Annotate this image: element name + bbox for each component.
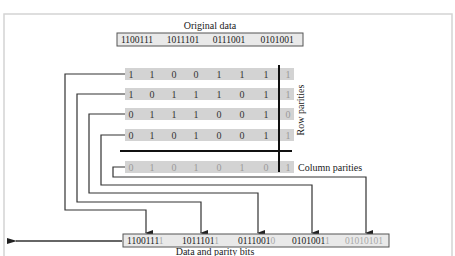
output-word: 01010101 [345, 236, 383, 246]
row-parity-bit: 1 [286, 69, 291, 80]
original-data-title: Original data [184, 20, 237, 31]
output-word: 01110010 [238, 236, 276, 246]
svg-text:0: 0 [217, 109, 222, 120]
svg-text:0: 0 [150, 89, 155, 100]
svg-text:0: 0 [129, 130, 134, 141]
svg-text:1: 1 [286, 162, 291, 173]
svg-text:0: 0 [129, 109, 134, 120]
svg-text:1: 1 [194, 89, 199, 100]
original-data-word: 1100111 [121, 35, 153, 45]
svg-text:1: 1 [150, 130, 155, 141]
row-parity-bit: 1 [286, 130, 291, 141]
svg-text:1: 1 [129, 89, 134, 100]
svg-text:1: 1 [172, 109, 177, 120]
svg-text:1: 1 [240, 69, 245, 80]
svg-text:0: 0 [264, 162, 269, 173]
svg-text:0: 0 [240, 109, 245, 120]
matrix-row: 1 0 1 1 1 0 1 1 [125, 88, 294, 100]
svg-text:1: 1 [150, 69, 155, 80]
output-word: 11001111 [127, 236, 164, 246]
svg-text:0: 0 [217, 162, 222, 173]
original-data-word: 0111001 [213, 35, 246, 45]
svg-text:0: 0 [129, 162, 134, 173]
output-word: 10111011 [182, 236, 219, 246]
two-dimensional-parity-diagram: Original data 1100111 1011101 0111001 01… [0, 0, 455, 256]
column-parities-label: Column parities [298, 162, 362, 173]
svg-text:1: 1 [129, 69, 134, 80]
svg-text:1: 1 [264, 89, 269, 100]
svg-text:0: 0 [240, 89, 245, 100]
svg-text:0: 0 [240, 130, 245, 141]
original-data-word: 0101001 [260, 35, 294, 45]
matrix-row: 0 1 1 1 0 0 1 0 [125, 108, 294, 120]
connector-row-4 [101, 135, 312, 233]
svg-text:0: 0 [172, 162, 177, 173]
svg-text:0: 0 [172, 130, 177, 141]
svg-text:1: 1 [150, 162, 155, 173]
svg-text:1: 1 [217, 69, 222, 80]
svg-text:0: 0 [194, 69, 199, 80]
matrix-row: 1 1 0 0 1 1 1 1 [125, 68, 294, 80]
svg-text:1: 1 [264, 69, 269, 80]
svg-text:1: 1 [217, 89, 222, 100]
svg-text:1: 1 [194, 130, 199, 141]
output-word: 01010011 [292, 236, 330, 246]
row-parity-bit: 1 [286, 89, 291, 100]
row-parity-bit: 0 [286, 109, 291, 120]
svg-text:0: 0 [172, 69, 177, 80]
column-parity-row: 0 1 0 1 0 1 0 1 [125, 161, 294, 173]
svg-text:1: 1 [172, 89, 177, 100]
data-parity-label: Data and parity bits [176, 246, 255, 256]
connector-parity-row [113, 167, 366, 233]
svg-text:1: 1 [264, 109, 269, 120]
svg-text:1: 1 [150, 109, 155, 120]
svg-text:1: 1 [194, 109, 199, 120]
svg-text:0: 0 [217, 130, 222, 141]
row-parities-label: Row parities [295, 84, 306, 135]
matrix-row: 0 1 0 1 0 0 1 1 [125, 129, 294, 141]
original-data-word: 1011101 [167, 35, 200, 45]
svg-text:1: 1 [264, 130, 269, 141]
svg-text:1: 1 [240, 162, 245, 173]
svg-text:1: 1 [194, 162, 199, 173]
